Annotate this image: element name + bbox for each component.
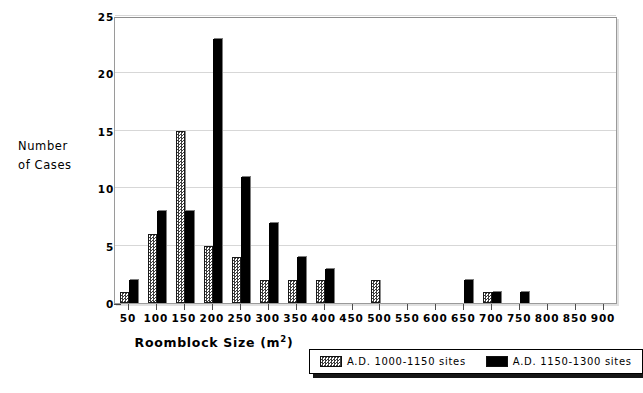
y-tick-label: 25 — [90, 11, 114, 23]
x-tick-mark — [547, 304, 548, 310]
x-tick-mark — [575, 304, 576, 310]
bar-light-500 — [371, 280, 380, 303]
gridline — [115, 72, 616, 73]
x-axis-title-close: ) — [287, 335, 293, 350]
x-tick-mark — [407, 304, 408, 310]
x-tick-mark — [212, 304, 213, 310]
y-tick-label: 0 — [90, 298, 114, 310]
gridline — [115, 130, 616, 131]
bar-dark-350 — [297, 257, 306, 303]
x-tick-mark — [240, 304, 241, 310]
solid-black-swatch — [486, 356, 508, 367]
x-tick-mark — [519, 304, 520, 310]
bar-dark-150 — [185, 211, 194, 303]
plot-area — [114, 17, 617, 304]
x-tick-mark — [268, 304, 269, 310]
bar-light-700 — [483, 292, 492, 303]
x-tick-mark — [379, 304, 380, 310]
bar-light-150 — [176, 131, 185, 303]
bar-light-200 — [204, 246, 213, 303]
bar-dark-700 — [492, 292, 501, 303]
x-tick-label: 900 — [583, 312, 623, 324]
stipple-swatch — [320, 356, 342, 367]
x-axis-title-superscript: 2 — [280, 334, 287, 344]
legend-label: A.D. 1150-1300 sites — [513, 356, 632, 367]
legend-label: A.D. 1000-1150 sites — [347, 356, 466, 367]
x-tick-mark — [184, 304, 185, 310]
bar-dark-750 — [520, 292, 529, 303]
gridline — [115, 15, 616, 16]
bar-dark-100 — [157, 211, 166, 303]
y-tick-label: 5 — [90, 241, 114, 253]
bar-dark-250 — [241, 177, 250, 303]
chart-legend: A.D. 1000-1150 sitesA.D. 1150-1300 sites — [309, 349, 643, 374]
x-axis: 5010015020025030035040045050055060065070… — [114, 304, 617, 332]
bar-dark-200 — [213, 39, 222, 303]
legend-entry-2: A.D. 1150-1300 sites — [486, 356, 632, 367]
y-tick-label: 10 — [90, 183, 114, 195]
x-tick-mark — [128, 304, 129, 310]
bar-light-250 — [232, 257, 241, 303]
bar-dark-400 — [325, 269, 334, 303]
x-axis-title: Roomblock Size (m2) — [114, 335, 314, 350]
x-axis-title-base: Roomblock Size (m — [135, 335, 281, 350]
bar-dark-650 — [464, 280, 473, 303]
x-tick-mark — [603, 304, 604, 310]
bar-light-50 — [120, 292, 129, 303]
x-tick-mark — [156, 304, 157, 310]
x-tick-mark — [463, 304, 464, 310]
bar-dark-300 — [269, 223, 278, 303]
bar-dark-50 — [129, 280, 138, 303]
x-tick-mark — [491, 304, 492, 310]
bar-light-400 — [316, 280, 325, 303]
bar-light-100 — [148, 234, 157, 303]
x-tick-mark — [352, 304, 353, 310]
y-tick-label: 20 — [90, 68, 114, 80]
plot-inner — [115, 18, 616, 303]
y-tick-label: 15 — [90, 126, 114, 138]
bar-light-350 — [288, 280, 297, 303]
y-axis: 0510152025 — [80, 17, 114, 304]
legend-entry-1: A.D. 1000-1150 sites — [320, 356, 466, 367]
x-tick-mark — [435, 304, 436, 310]
x-tick-mark — [296, 304, 297, 310]
x-tick-mark — [324, 304, 325, 310]
bar-light-300 — [260, 280, 269, 303]
gridline — [115, 187, 616, 188]
